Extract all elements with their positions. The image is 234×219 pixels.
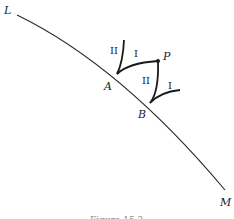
label-b-ii: II	[142, 75, 150, 86]
label-p: P	[162, 50, 171, 63]
label-l: L	[3, 4, 11, 17]
figure-caption: Figure 15.3	[90, 215, 143, 219]
label-a-i: I	[134, 48, 138, 59]
label-m: M	[219, 196, 232, 209]
point-p-dot	[156, 59, 160, 63]
characteristic-i-from-a	[117, 61, 158, 74]
characteristics-diagram: L A B P M II I II I Figure 15.3	[0, 0, 234, 219]
curve-lm	[17, 15, 225, 190]
label-a: A	[103, 80, 112, 93]
label-a-ii: II	[110, 45, 118, 56]
label-b-i: I	[168, 80, 172, 91]
label-b: B	[137, 108, 146, 121]
